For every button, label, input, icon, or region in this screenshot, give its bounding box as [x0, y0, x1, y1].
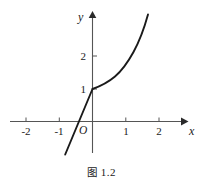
figure-caption: 图 1.2 [0, 164, 203, 179]
figure-container: x y O -2 -1 1 2 1 2 图 1.2 [0, 0, 203, 185]
caption-prefix: 图 [87, 166, 98, 178]
x-tick-label-minus1: -1 [49, 126, 69, 137]
plot-area [0, 0, 203, 185]
y-tick-label-1: 1 [72, 84, 86, 95]
y-tick-label-2: 2 [72, 51, 86, 62]
x-axis-label: x [189, 125, 194, 137]
x-axis-arrowhead [181, 118, 189, 126]
caption-number: 1.2 [101, 166, 116, 178]
origin-label: O [79, 125, 87, 137]
y-axis-label: y [78, 11, 83, 23]
x-tick-label-1: 1 [116, 126, 136, 137]
x-tick-label-2: 2 [149, 126, 169, 137]
x-tick-label-minus2: -2 [16, 126, 36, 137]
y-axis-arrowhead [89, 11, 97, 18]
function-right-branch [93, 15, 149, 90]
